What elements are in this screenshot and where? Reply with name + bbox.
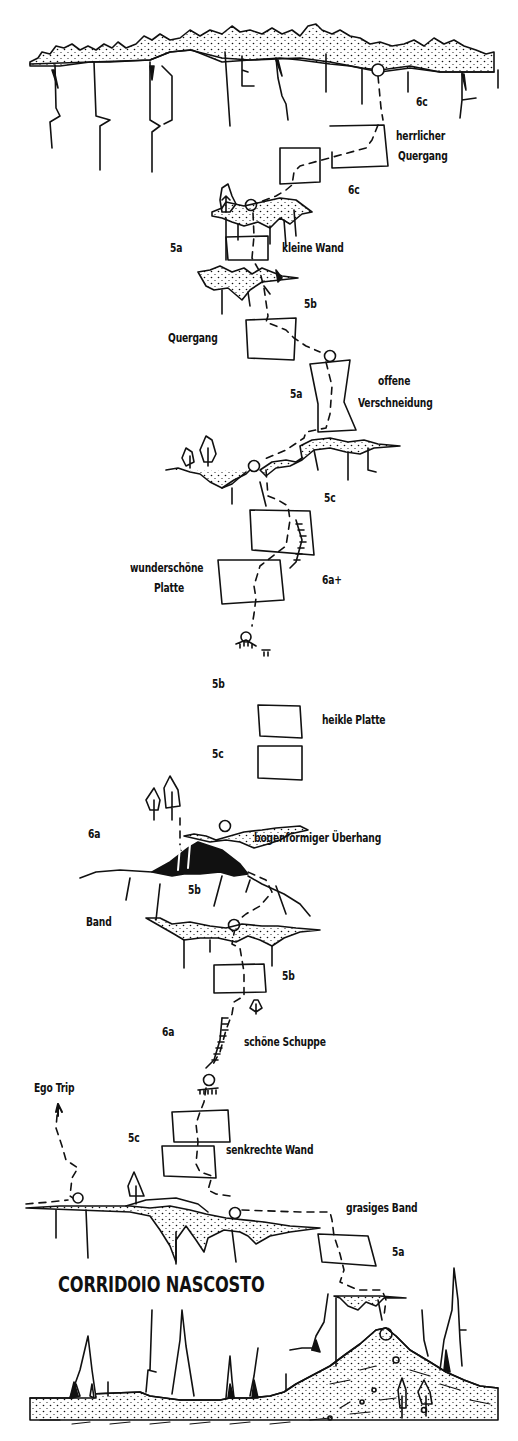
belay-icon [220, 821, 231, 832]
grade-label: 6a+ [322, 572, 342, 588]
grade-label: 6c [416, 94, 427, 110]
grade-label: 5b [212, 676, 225, 692]
belay-icon [204, 1075, 215, 1086]
grade-label: 6a [162, 1024, 174, 1040]
feature-label: heikle Platte [322, 712, 385, 728]
feature-label: Platte [154, 580, 184, 596]
route-line [26, 76, 386, 1316]
feature-label: Quergang [168, 330, 218, 346]
overhang [80, 842, 310, 920]
topo-drawing [0, 0, 518, 1441]
belay-icon [325, 351, 336, 362]
route-title: CORRIDOIO NASCOSTO [58, 1272, 265, 1298]
belay-icon [372, 64, 384, 76]
grade-label: 5c [324, 490, 335, 506]
belay-icon [73, 1193, 83, 1203]
grade-label: 5a [290, 386, 302, 402]
feature-label: wunderschöne [130, 560, 203, 576]
feature-label: bogenförmiger Überhang [254, 830, 381, 846]
flakes [198, 520, 306, 1094]
feature-label: offene [378, 373, 410, 389]
feature-label: senkrechte Wand [226, 1142, 313, 1158]
feature-label: schöne Schuppe [244, 1034, 326, 1050]
grade-label: 5b [282, 968, 295, 984]
grade-label: 5b [304, 296, 317, 312]
grade-label: 5c [128, 1130, 139, 1146]
grade-label: 5a [170, 240, 182, 256]
feature-label: herrlicher [396, 128, 445, 144]
grade-label: 5c [212, 746, 223, 762]
feature-label: Band [86, 914, 112, 930]
feature-label: kleine Wand [282, 240, 344, 256]
belay-icon [230, 1208, 241, 1219]
variant-route-label: Ego Trip [34, 1080, 74, 1096]
grade-label: 6c [348, 182, 359, 198]
feature-label: Quergang [398, 148, 448, 164]
topo-diagram: 6c herrlicher Quergang 6c 5a kleine Wand… [0, 0, 518, 1441]
pitch-boxes [162, 125, 388, 1266]
grade-label: 6a [88, 826, 100, 842]
grade-label: 5a [392, 1244, 404, 1260]
feature-label: Verschneidung [358, 395, 433, 411]
feature-label: grasiges Band [346, 1200, 417, 1216]
grade-label: 5b [188, 882, 201, 898]
